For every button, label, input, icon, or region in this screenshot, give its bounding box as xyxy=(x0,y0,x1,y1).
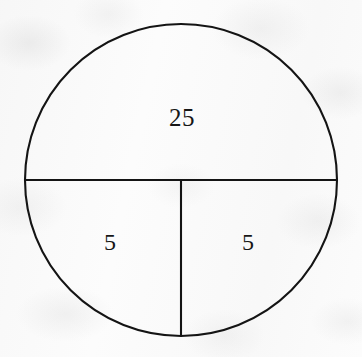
lower-right-quadrant-label: 5 xyxy=(242,230,254,254)
diagram-canvas: 25 5 5 xyxy=(0,0,362,357)
circle-diagram-figure xyxy=(0,0,362,357)
upper-semicircle-label: 25 xyxy=(169,105,195,130)
lower-left-quadrant-label: 5 xyxy=(104,230,116,254)
